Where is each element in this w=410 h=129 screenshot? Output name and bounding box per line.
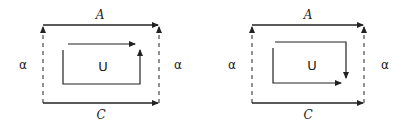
label-top: A <box>303 8 313 22</box>
label-left: α <box>228 58 236 72</box>
right-diagram: A C α α U <box>228 8 389 122</box>
label-center: U <box>98 59 108 74</box>
left-diagram: A C α α U <box>19 8 182 122</box>
label-right: α <box>381 58 389 72</box>
label-left: α <box>19 58 27 72</box>
label-right: α <box>174 58 182 72</box>
label-center: U <box>307 58 317 73</box>
label-bottom: C <box>96 108 105 122</box>
diagram-canvas: A C α α U A C α α U <box>0 0 410 129</box>
label-top: A <box>95 8 105 22</box>
label-bottom: C <box>303 108 312 122</box>
